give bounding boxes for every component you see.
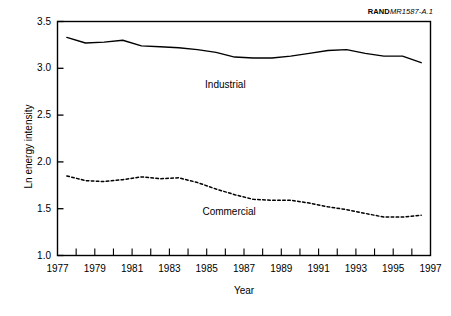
x-tick-label: 1987 (224, 264, 264, 274)
x-tick-label: 1993 (336, 264, 376, 274)
series-label-commercial: Commercial (202, 206, 255, 217)
x-tick-label: 1983 (149, 264, 189, 274)
x-tick-label: 1997 (411, 264, 451, 274)
x-tick-label: 1985 (187, 264, 227, 274)
x-tick-label: 1979 (75, 264, 115, 274)
x-tick-label: 1995 (373, 264, 413, 274)
x-tick-label: 1981 (112, 264, 152, 274)
x-tick-label: 1989 (261, 264, 301, 274)
figure-container: RANDMR1587-A.1 Ln energy intensity Year … (0, 0, 451, 316)
x-tick-label: 1977 (38, 264, 78, 274)
series-label-industrial: Industrial (205, 79, 246, 90)
x-tick-label-group: 1977197919811983198519871989199119931995… (0, 0, 451, 316)
x-tick-label: 1991 (299, 264, 339, 274)
